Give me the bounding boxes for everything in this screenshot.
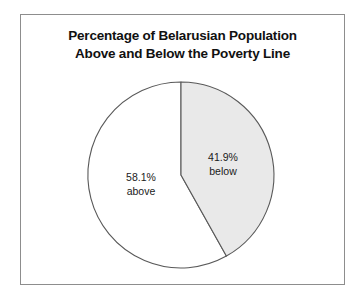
pie-chart (0, 0, 361, 297)
pie-label-below-value: 41.9% (188, 151, 258, 165)
figure-container: Percentage of Belarusian Population Abov… (0, 0, 361, 297)
pie-label-above-value: 58.1% (106, 171, 176, 185)
pie-label-above: 58.1% above (106, 171, 176, 199)
pie-label-below: 41.9% below (188, 151, 258, 179)
pie-label-below-text: below (188, 165, 258, 179)
pie-label-above-text: above (106, 185, 176, 199)
